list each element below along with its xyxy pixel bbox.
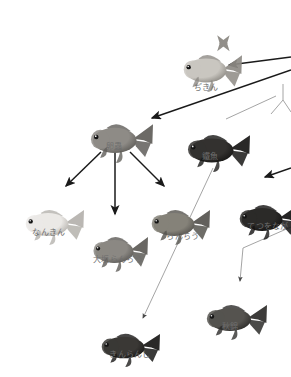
fish-label-jikin: ぢきん — [178, 83, 234, 93]
fish-node-nankin[interactable] — [22, 188, 84, 249]
fish-label-tetsugyo: 鐵魚 — [192, 152, 228, 162]
lineage-diagram-canvas: ぢきん 卵蟲 — [0, 0, 291, 377]
fish-label-tetsuonaga: てつをなが — [240, 222, 291, 232]
connector-branch-down-akinishiki — [240, 248, 243, 281]
fish-label-osaka-ranchu: 大坂らんちう — [78, 255, 158, 265]
fish-node-akinishiki[interactable] — [203, 283, 267, 344]
fish-label-kinranshi: きんらんし — [100, 350, 160, 360]
connector-fork-right-branch — [283, 100, 291, 112]
fish-node-tetsuonaga[interactable] — [236, 183, 291, 244]
fish-node-ranchu-egg[interactable] — [87, 100, 153, 167]
fish-node-kinranshi[interactable] — [98, 313, 160, 371]
fish-node-osaka-ranchu[interactable] — [90, 215, 148, 276]
connector-fork-left-branch — [271, 100, 283, 114]
fish-icon-ranchu-egg — [87, 100, 153, 163]
fish-label-ranchu: らんちう — [156, 232, 210, 242]
fish-label-akinishiki: 秋錦 — [212, 322, 248, 332]
fish-label-nankin: なんきん — [18, 228, 80, 238]
fish-label-ranchu-egg: 卵蟲 — [94, 142, 134, 152]
fish-node-tetsugyo[interactable] — [184, 112, 250, 176]
connector-to-tetsuonaga — [265, 168, 291, 177]
fish-icon-tetsugyo — [184, 112, 250, 172]
